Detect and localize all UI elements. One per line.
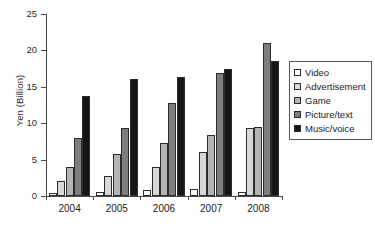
bar (207, 135, 215, 196)
bar (190, 189, 198, 196)
legend-swatch-icon (294, 97, 301, 104)
y-axis-title: Yen (Billion) (14, 41, 25, 161)
bar (143, 190, 151, 196)
bar-group (188, 14, 235, 196)
bar (238, 192, 246, 196)
plot-area: 0510152025 20042005200620072008 (46, 14, 282, 196)
bar (224, 69, 232, 196)
legend-item: Picture/text (294, 108, 366, 121)
y-tick-label: 10 (26, 116, 37, 129)
bar-group (140, 14, 187, 196)
x-tick (93, 196, 94, 200)
bar (130, 79, 138, 196)
bar (57, 181, 65, 196)
bar-group (93, 14, 140, 196)
bar (254, 127, 262, 196)
bar (271, 61, 279, 196)
x-tick (140, 196, 141, 200)
y-tick-label: 20 (26, 43, 37, 56)
legend-label: Music/voice (305, 123, 355, 134)
bar (199, 152, 207, 196)
legend-swatch-icon (294, 83, 301, 90)
legend: VideoAdvertisementGamePicture/textMusic/… (289, 61, 372, 140)
bar (246, 128, 254, 196)
y-tick-label: 25 (26, 7, 37, 20)
legend-item: Video (294, 66, 366, 79)
x-axis-label: 2006 (140, 203, 187, 214)
legend-item: Game (294, 94, 366, 107)
x-axis-label: 2007 (188, 203, 235, 214)
bar-chart: Yen (Billion) 0510152025 200420052006200… (0, 0, 375, 230)
legend-item: Advertisement (294, 80, 366, 93)
x-axis-label: 2008 (235, 203, 282, 214)
bar (216, 73, 224, 196)
bar (160, 143, 168, 196)
x-tick (46, 196, 47, 200)
x-axis-label: 2005 (93, 203, 140, 214)
legend-label: Picture/text (305, 109, 353, 120)
bar (82, 96, 90, 196)
legend-swatch-icon (294, 125, 301, 132)
y-tick-label: 15 (26, 80, 37, 93)
legend-swatch-icon (294, 69, 301, 76)
bar (121, 128, 129, 196)
bar (113, 154, 121, 196)
bar-group (235, 14, 282, 196)
legend-label: Video (305, 67, 329, 78)
x-axis-label: 2004 (46, 203, 93, 214)
bar (168, 103, 176, 196)
legend-swatch-icon (294, 111, 301, 118)
legend-label: Advertisement (305, 81, 366, 92)
x-tick (235, 196, 236, 200)
legend-item: Music/voice (294, 122, 366, 135)
bar (152, 167, 160, 196)
x-tick (282, 196, 283, 200)
bar (104, 176, 112, 196)
bar (177, 77, 185, 196)
legend-label: Game (305, 95, 331, 106)
bar (96, 192, 104, 196)
bar (49, 193, 57, 196)
bar (66, 167, 74, 196)
y-tick-label: 5 (32, 153, 37, 166)
x-axis-line (46, 196, 282, 197)
bar (263, 43, 271, 196)
bar (74, 138, 82, 196)
y-tick-label: 0 (32, 189, 37, 202)
bar-group (46, 14, 93, 196)
x-tick (188, 196, 189, 200)
